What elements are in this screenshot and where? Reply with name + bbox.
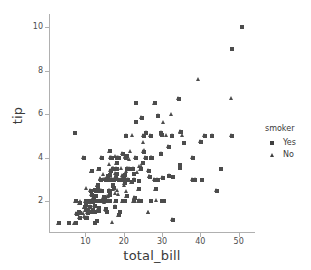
data-point-yes [203,134,207,138]
data-point-yes [89,189,93,193]
data-point-yes [78,201,82,205]
data-point-no [101,172,105,176]
data-point-yes [106,199,110,203]
data-point-yes [102,195,106,199]
data-point-no [96,199,100,203]
data-point-no [73,199,77,203]
data-point-no [229,133,233,137]
data-point-no [91,200,95,204]
data-point-yes [150,156,154,160]
data-point-no [77,210,81,214]
legend-item-yes[interactable]: Yes [265,137,311,148]
data-point-no [143,155,147,159]
data-point-no [95,183,99,187]
data-point-no [56,221,60,225]
data-point-no [110,166,114,170]
data-point-no [123,155,127,159]
data-point-no [122,199,126,203]
data-point-no [107,188,111,192]
data-point-no [85,210,89,214]
data-point-no [110,177,114,181]
data-point-no [85,199,89,203]
data-point-yes [171,175,175,179]
data-point-no [84,199,88,203]
data-point-yes [78,211,82,215]
data-point-yes [112,167,116,171]
data-point-yes [92,195,96,199]
data-point-no [156,113,160,117]
data-point-no [137,164,141,168]
data-point-yes [134,156,138,160]
data-point-no [198,139,202,143]
legend: smoker Yes No [265,124,311,161]
data-point-no [73,221,77,225]
data-point-yes [95,199,99,203]
data-point-no [169,112,173,116]
data-point-yes [85,216,89,220]
data-point-no [114,177,118,181]
data-point-no [72,221,76,225]
data-point-yes [74,199,78,203]
data-point-yes [167,174,171,178]
data-point-no [87,199,91,203]
data-point-no [103,177,107,181]
data-point-no [118,210,122,214]
data-point-yes [110,178,114,182]
data-point-no [149,155,153,159]
data-point-no [94,199,98,203]
data-point-yes [117,213,121,217]
y-tick-label: 4 [38,154,43,162]
data-point-no [149,199,153,203]
data-point-no [93,221,97,225]
data-point-yes [84,199,88,203]
data-point-no [159,132,163,136]
data-point-no [84,206,88,210]
data-point-no [136,199,140,203]
data-point-no [132,177,136,181]
data-point-no [193,177,197,181]
data-point-no [95,199,99,203]
data-point-no [123,154,127,158]
data-point-yes [105,178,109,182]
data-point-no [93,188,97,192]
data-point-no [89,192,93,196]
data-point-yes [113,205,117,209]
data-point-no [178,130,182,134]
data-point-yes [96,189,100,193]
data-point-no [120,151,124,155]
data-point-yes [93,188,97,192]
data-point-no [139,199,143,203]
data-point-no [82,205,86,209]
data-point-yes [97,167,101,171]
data-point-no [112,177,116,181]
data-point-no [115,188,119,192]
legend-item-no[interactable]: No [265,149,311,160]
y-tick-label: 10 [33,23,43,31]
data-point-no [104,198,108,202]
data-point-no [97,199,101,203]
data-point-yes [126,178,130,182]
data-point-no [125,166,129,170]
data-point-yes [144,131,148,135]
data-point-yes [67,221,71,225]
x-tick-label: 30 [152,238,172,246]
data-point-yes [215,189,219,193]
data-point-no [113,204,117,208]
data-point-no [114,166,118,170]
data-point-yes [114,199,118,203]
data-point-yes [94,194,98,198]
data-point-yes [230,47,234,51]
data-point-no [96,167,100,171]
data-point-no [112,185,116,189]
data-point-yes [111,183,115,187]
data-point-no [93,199,97,203]
data-point-no [108,172,112,176]
triangle-marker-icon [265,153,279,157]
data-point-yes [57,221,61,225]
data-point-no [98,188,102,192]
data-point-yes [96,184,100,188]
x-tick-label: 40 [190,238,210,246]
data-point-yes [104,178,108,182]
data-point-yes [82,156,86,160]
data-point-no [76,210,80,214]
